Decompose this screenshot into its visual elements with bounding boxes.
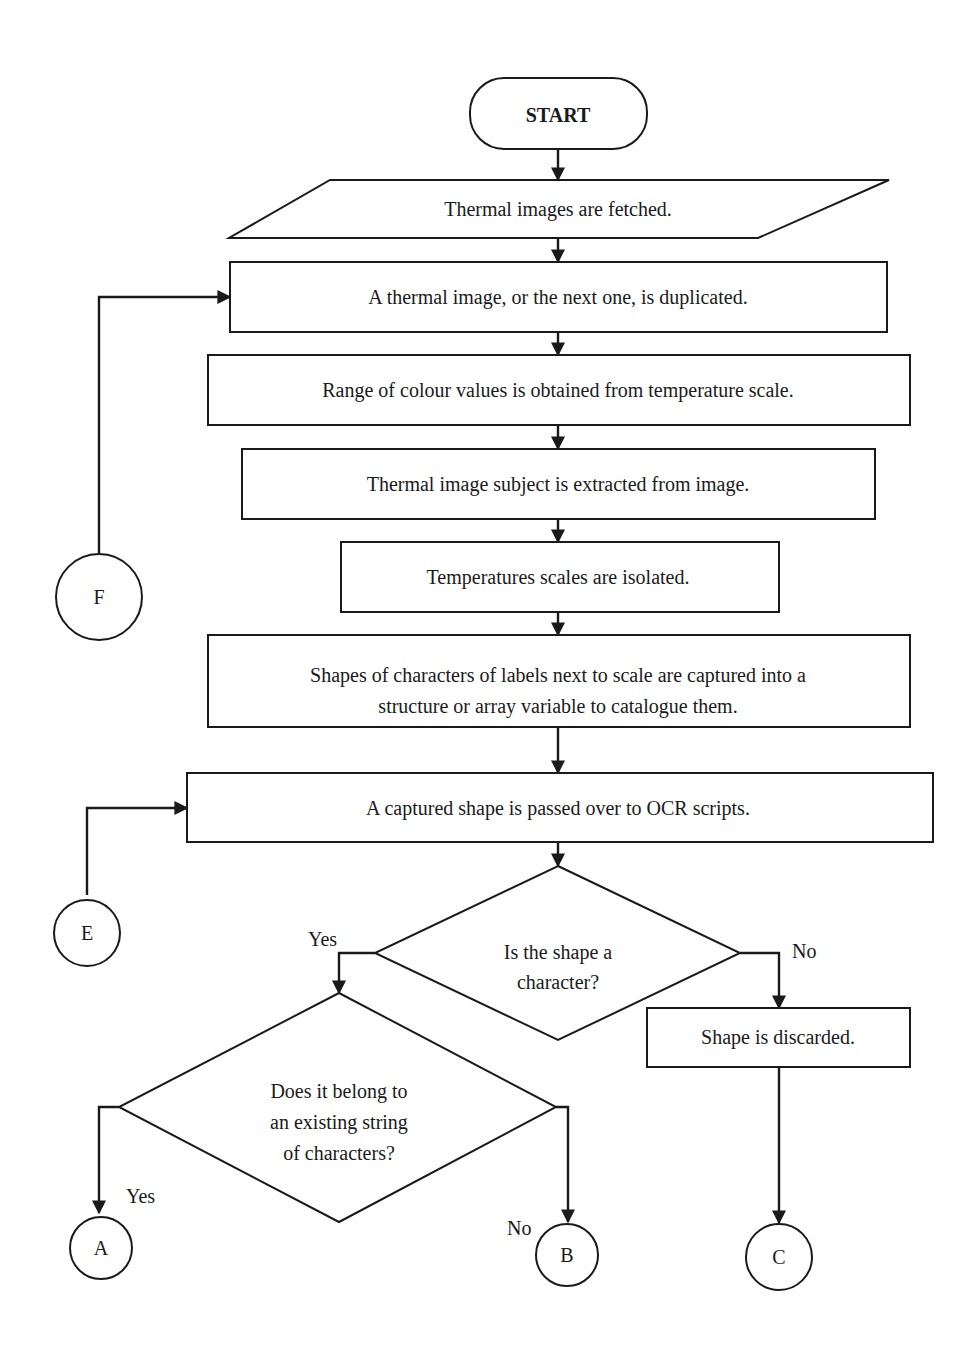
process-discard: Shape is discarded. (647, 1008, 910, 1067)
process-capture-shapes: Shapes of characters of labels next to s… (208, 635, 910, 727)
capture-shapes-label-line1: Shapes of characters of labels next to s… (310, 664, 806, 687)
belongs-line2: an existing string (270, 1111, 408, 1134)
duplicate-label: A thermal image, or the next one, is dup… (368, 286, 747, 309)
arrow-e-to-ocr (87, 808, 187, 895)
arrow-is-character-no (740, 953, 779, 1008)
flowchart: START Thermal images are fetched. A ther… (0, 0, 979, 1348)
process-pass-ocr: A captured shape is passed over to OCR s… (187, 773, 933, 842)
connector-c: C (746, 1224, 812, 1290)
is-character-line1: Is the shape a (504, 941, 612, 964)
process-colour-range: Range of colour values is obtained from … (208, 355, 910, 425)
process-isolate-scales: Temperatures scales are isolated. (341, 542, 779, 612)
connector-b-label: B (560, 1244, 573, 1266)
connector-e: E (54, 900, 120, 966)
is-character-no-label: No (792, 940, 816, 962)
arrow-belongs-no (556, 1107, 568, 1222)
colour-range-label: Range of colour values is obtained from … (322, 379, 794, 402)
start-label: START (526, 104, 591, 126)
capture-shapes-label-line2: structure or array variable to catalogue… (378, 695, 737, 718)
discard-label: Shape is discarded. (701, 1026, 855, 1049)
connector-f-label: F (93, 586, 104, 608)
pass-ocr-label: A captured shape is passed over to OCR s… (366, 797, 750, 820)
connector-e-label: E (81, 922, 93, 944)
fetch-images-label: Thermal images are fetched. (444, 198, 672, 221)
connector-b: B (536, 1224, 598, 1286)
is-character-yes-label: Yes (308, 928, 337, 950)
extract-subject-label: Thermal image subject is extracted from … (367, 473, 750, 496)
is-character-line2: character? (517, 971, 599, 993)
connector-f: F (56, 554, 142, 640)
arrow-belongs-yes (99, 1107, 119, 1213)
decision-belongs-to-string: Does it belong to an existing string of … (119, 993, 556, 1222)
belongs-yes-label: Yes (126, 1185, 155, 1207)
isolate-scales-label: Temperatures scales are isolated. (427, 566, 690, 589)
process-duplicate: A thermal image, or the next one, is dup… (230, 262, 887, 332)
belongs-line1: Does it belong to (270, 1080, 407, 1103)
belongs-line3: of characters? (283, 1142, 395, 1164)
connector-a: A (70, 1217, 132, 1279)
connector-a-label: A (94, 1237, 109, 1259)
start-terminator: START (470, 78, 647, 149)
fetch-images-io: Thermal images are fetched. (229, 180, 889, 238)
arrow-f-to-duplicate (99, 297, 230, 565)
process-extract-subject: Thermal image subject is extracted from … (242, 449, 875, 519)
connector-c-label: C (772, 1246, 785, 1268)
arrow-is-character-yes (339, 953, 375, 993)
belongs-no-label: No (507, 1217, 531, 1239)
